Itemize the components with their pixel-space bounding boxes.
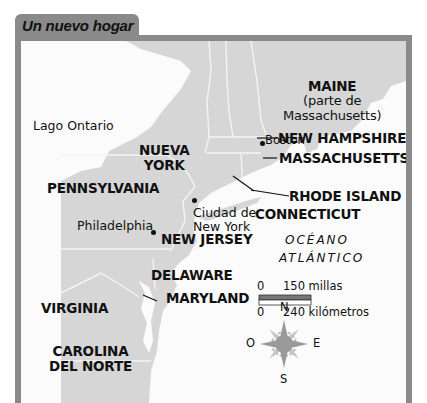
label-pennsylvania: PENNSYLVANIA: [47, 181, 159, 196]
label-nueva-york: NUEVA YORK: [139, 143, 189, 173]
label-virginia: VIRGINIA: [41, 301, 108, 316]
label-massachusetts: MASSACHUSETTS: [279, 151, 406, 166]
compass-south: S: [280, 373, 287, 386]
label-lago-ontario: Lago Ontario: [33, 119, 114, 133]
map-area: Lago Ontario OCÉANO ATLÁNTICO MAINE (par…: [21, 41, 406, 403]
label-maryland: MARYLAND: [166, 291, 249, 306]
label-carolina-line2: DEL NORTE: [49, 359, 132, 374]
label-nyc-line2: New York: [193, 220, 256, 234]
scale-km-label: 240 kilómetros: [283, 306, 369, 319]
label-nueva-york-line1: NUEVA: [139, 143, 189, 158]
leader-rhode-island: [251, 190, 289, 196]
label-maine-line2: (parte de: [283, 94, 381, 109]
label-carolina-line1: CAROLINA: [49, 344, 132, 359]
label-nyc-line1: Ciudad de: [193, 206, 256, 220]
label-carolina-del-norte: CAROLINA DEL NORTE: [49, 344, 132, 374]
compass-rose: [260, 320, 308, 368]
label-maine-line1: MAINE: [283, 79, 381, 94]
compass-east: E: [313, 337, 320, 350]
label-philadelphia: Philadelphia: [77, 219, 153, 233]
label-ciudad-de-new-york: Ciudad de New York: [193, 206, 256, 234]
label-boston: Boston: [265, 134, 305, 147]
scale-miles-label: 150 millas: [283, 280, 342, 293]
scale-miles-zero: 0: [257, 280, 264, 293]
map-title: Un nuevo hogar: [22, 17, 133, 34]
label-nueva-york-line2: YORK: [139, 158, 189, 173]
label-new-jersey: NEW JERSEY: [161, 232, 252, 247]
compass-west: O: [246, 337, 255, 350]
label-delaware: DELAWARE: [151, 268, 233, 283]
label-maine-line3: Massachusetts): [283, 109, 381, 124]
label-rhode-island: RHODE ISLAND: [289, 189, 401, 204]
label-connecticut: CONNECTICUT: [255, 207, 360, 222]
label-atlantico: ATLÁNTICO: [279, 252, 364, 265]
scale-km-zero: 0: [257, 306, 264, 319]
label-oceano: OCÉANO: [285, 234, 349, 247]
label-maine: MAINE (parte de Massachusetts): [283, 79, 381, 123]
new-york-dot: [192, 198, 197, 203]
compass-north: N: [280, 301, 289, 314]
